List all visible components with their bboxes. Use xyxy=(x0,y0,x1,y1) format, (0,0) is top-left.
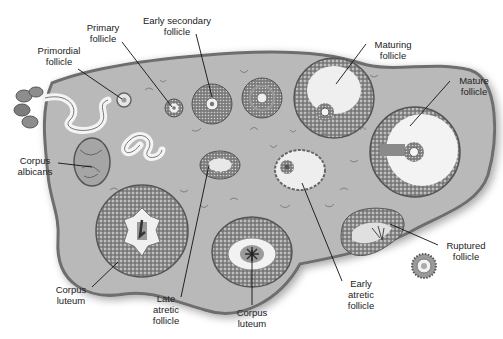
label-maturing-follicle: Maturing follicle xyxy=(368,39,418,61)
released-ovum xyxy=(412,254,436,278)
corpus-luteum-left xyxy=(96,185,188,277)
label-corpus-luteum-left: Corpus luteum xyxy=(48,284,94,306)
label-corpus-albicans: Corpus albicans xyxy=(12,155,58,177)
ruptured-follicle xyxy=(341,208,404,255)
label-early-secondary-follicle: Early secondary follicle xyxy=(136,15,218,37)
secondary-follicle xyxy=(242,78,282,118)
late-atretic-follicle xyxy=(200,151,240,179)
early-atretic-follicle xyxy=(275,150,325,190)
label-ruptured-follicle: Ruptured follicle xyxy=(440,240,492,262)
label-primordial-follicle: Primordial follicle xyxy=(34,45,84,67)
label-mature-follicle: Mature follicle xyxy=(451,75,497,97)
early-secondary-follicle xyxy=(192,84,232,124)
label-early-atretic-follicle: Early atretic follicle xyxy=(340,278,382,311)
corpus-albicans xyxy=(74,138,110,186)
label-late-atretic-follicle: Late atretic follicle xyxy=(146,293,186,326)
label-primary-follicle: Primary follicle xyxy=(78,22,128,44)
label-corpus-luteum-bottom: Corpus luteum xyxy=(228,307,276,329)
primordial-follicle xyxy=(117,93,131,107)
maturing-follicle xyxy=(294,58,374,138)
